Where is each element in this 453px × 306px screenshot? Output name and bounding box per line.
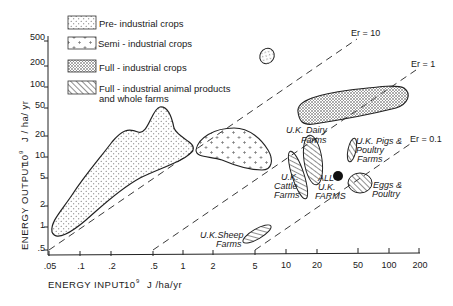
y-axis-title: ENERGY OUTPUT 10 9 J / ha/ yr — [18, 101, 30, 250]
legend-label-semi-industrial: Semi - industrial crops — [98, 38, 192, 49]
y-tick-5: 5 — [40, 171, 45, 181]
chart-canvas: Pre- industrial crops Semi - industrial … — [0, 0, 453, 306]
y-axis-unit: J / ha/ yr — [19, 101, 30, 142]
y-ticks — [44, 41, 48, 250]
region-full-industrial-crops — [298, 86, 408, 124]
x-tick-0-2: .2 — [108, 261, 116, 271]
x-axis-exponent: 9 — [136, 278, 140, 284]
er-10-label: Er = 10 — [351, 28, 380, 38]
y-tick-200: 200 — [30, 57, 45, 67]
er-0-1-label: Er = 0.1 — [410, 134, 442, 144]
legend-swatch-animal-products — [68, 81, 96, 94]
y-tick-1: 1 — [40, 220, 45, 230]
y-axis-name: ENERGY OUTPUT — [19, 162, 30, 250]
x-tick-1: 1 — [180, 261, 185, 271]
x-axis-title: ENERGY INPUT 10 9 J /ha/yr — [48, 278, 182, 290]
legend-swatch-semi-industrial — [68, 37, 96, 49]
y-tick-0-5: .5 — [37, 243, 45, 253]
x-axis-unit: J /ha/yr — [147, 279, 182, 290]
y-tick-50: 50 — [35, 100, 45, 110]
legend: Pre- industrial crops Semi - industrial … — [68, 16, 231, 104]
x-tick-0-1: .1 — [77, 261, 85, 271]
x-tick-0-5: .5 — [150, 261, 158, 271]
y-tick-500: 500 — [30, 32, 45, 42]
label-sheep-line2: Farms — [216, 239, 242, 249]
y-tick-100: 100 — [30, 79, 45, 89]
legend-label-full-industrial: Full - industrial crops — [99, 62, 187, 73]
x-axis-power: 10 — [124, 279, 136, 290]
legend-label-pre-industrial: Pre- industrial crops — [99, 18, 184, 29]
legend-label-animal-products-line2: and whole farms — [99, 93, 169, 104]
region-semi-industrial-crops — [196, 128, 271, 170]
label-eggs-line2: Poultry — [372, 189, 401, 199]
er-1-label: Er = 1 — [411, 59, 435, 69]
region-uk-sheep-farms — [241, 222, 274, 247]
x-tick-50: 50 — [353, 260, 363, 270]
y-tick-10: 10 — [35, 150, 45, 160]
x-axis-line — [48, 253, 420, 255]
point-all-uk-farms — [333, 171, 343, 181]
y-tick-20: 20 — [35, 129, 45, 139]
region-pre-industrial-small — [257, 46, 277, 67]
legend-swatch-full-industrial — [68, 60, 96, 72]
x-tick-200: 200 — [412, 260, 427, 270]
y-axis-power: 10 — [19, 154, 30, 166]
x-tick-2: 2 — [210, 261, 215, 271]
label-all-line3: FARMS — [315, 191, 346, 201]
label-dairy-line1: U.K. Dairy — [286, 125, 328, 135]
x-axis-name: ENERGY INPUT — [48, 279, 125, 290]
y-axis-exponent: 9 — [18, 150, 24, 154]
x-tick-10: 10 — [281, 260, 291, 270]
region-pre-industrial-crops — [52, 107, 194, 236]
x-tick-5: 5 — [252, 261, 257, 271]
legend-swatch-pre-industrial — [68, 16, 96, 29]
x-tick-0-05: .05 — [44, 261, 57, 271]
x-tick-100: 100 — [381, 260, 396, 270]
x-tick-labels: .05 .1 .2 .5 1 2 5 10 20 50 100 200 — [44, 260, 428, 271]
x-tick-20: 20 — [312, 260, 322, 270]
label-dairy-line2: Farms — [301, 135, 327, 145]
y-tick-labels: 500 200 100 50 20 10 5 2 1 .5 — [30, 32, 45, 253]
region-eggs-poultry — [348, 173, 372, 193]
y-tick-2: 2 — [40, 199, 45, 209]
label-pigs-line3: Farms — [357, 154, 383, 164]
label-cattle-line3: Farms — [274, 190, 300, 200]
